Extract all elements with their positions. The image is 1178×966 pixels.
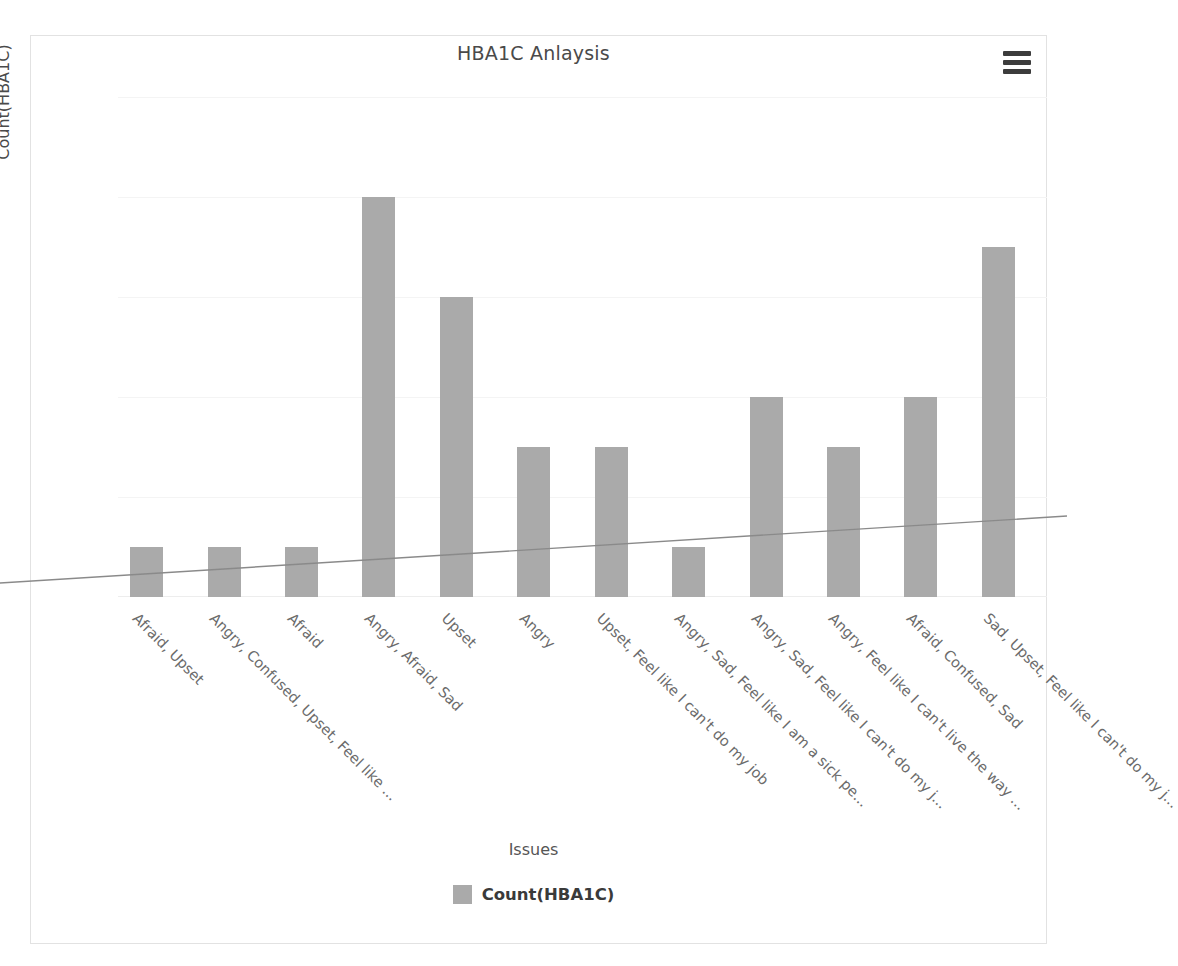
hamburger-bar-top <box>1003 51 1031 56</box>
legend-swatch-count-hba1c <box>453 885 472 904</box>
chart-title: HBA1C Anlaysis <box>0 42 1067 64</box>
bar[interactable] <box>208 547 241 597</box>
x-axis-tick-label: Upset, Feel like I can't do my job <box>594 610 772 788</box>
bar[interactable] <box>904 397 937 597</box>
bar[interactable] <box>285 547 318 597</box>
x-axis-tick-label: Angry <box>516 610 558 652</box>
x-axis-tick-labels: Afraid, UpsetAngry, Confused, Upset, Fee… <box>0 604 1067 844</box>
bar[interactable] <box>362 197 395 597</box>
bar[interactable] <box>672 547 705 597</box>
plot-area: 0246810 <box>118 97 1047 597</box>
hamburger-bar-bottom <box>1003 69 1031 74</box>
bar[interactable] <box>595 447 628 597</box>
y-axis-title: Count(HBA1C) <box>0 0 13 212</box>
bar[interactable] <box>517 447 550 597</box>
bar[interactable] <box>827 447 860 597</box>
x-axis-tick-label: Upset <box>439 610 480 651</box>
gridline <box>118 197 1047 198</box>
gridline <box>118 97 1047 98</box>
x-axis-tick-label: Afraid, Upset <box>129 610 207 688</box>
bar[interactable] <box>750 397 783 597</box>
legend-label-count-hba1c[interactable]: Count(HBA1C) <box>482 885 615 904</box>
bar[interactable] <box>440 297 473 597</box>
hamburger-menu-icon[interactable] <box>1001 48 1033 78</box>
x-axis-tick-label: Afraid <box>284 610 325 651</box>
bar[interactable] <box>982 247 1015 597</box>
gridline <box>118 297 1047 298</box>
chart-legend: Count(HBA1C) <box>0 885 1067 904</box>
x-axis-title: Issues <box>0 840 1067 859</box>
bar[interactable] <box>130 547 163 597</box>
hamburger-bar-middle <box>1003 60 1031 65</box>
